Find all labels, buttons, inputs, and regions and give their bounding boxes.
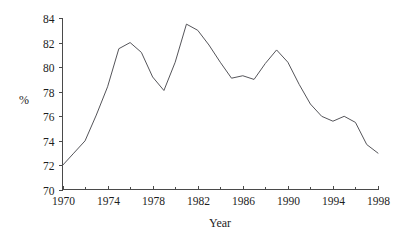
x-tick-label: 1970 bbox=[52, 195, 75, 207]
x-axis-title: Year bbox=[209, 216, 231, 230]
x-tick-label: 1998 bbox=[367, 195, 390, 207]
x-axis: 19701974197819821986199019941998 bbox=[52, 186, 390, 207]
y-tick-label: 78 bbox=[43, 87, 55, 99]
y-tick-label: 82 bbox=[43, 38, 55, 50]
x-tick-label: 1982 bbox=[187, 195, 210, 207]
data-series-line bbox=[63, 24, 379, 165]
y-tick-label: 74 bbox=[43, 136, 55, 148]
y-tick-marks bbox=[59, 19, 63, 191]
line-chart: 7072747678808284 19701974197819821986199… bbox=[0, 0, 401, 241]
y-tick-label: 80 bbox=[43, 62, 55, 74]
x-tick-label: 1986 bbox=[232, 195, 255, 207]
y-tick-label-group: 7072747678808284 bbox=[43, 13, 55, 197]
y-tick-label: 76 bbox=[43, 111, 55, 123]
x-tick-label-group: 19701974197819821986199019941998 bbox=[52, 195, 390, 207]
chart-canvas: 7072747678808284 19701974197819821986199… bbox=[0, 0, 401, 241]
y-axis-title: % bbox=[19, 93, 29, 107]
x-tick-label: 1994 bbox=[322, 195, 345, 207]
y-tick-label: 84 bbox=[43, 13, 55, 25]
x-tick-label: 1990 bbox=[277, 195, 300, 207]
x-tick-label: 1978 bbox=[142, 195, 165, 207]
y-axis: 7072747678808284 bbox=[43, 13, 63, 197]
x-tick-label: 1974 bbox=[97, 195, 120, 207]
y-tick-label: 72 bbox=[43, 160, 55, 172]
